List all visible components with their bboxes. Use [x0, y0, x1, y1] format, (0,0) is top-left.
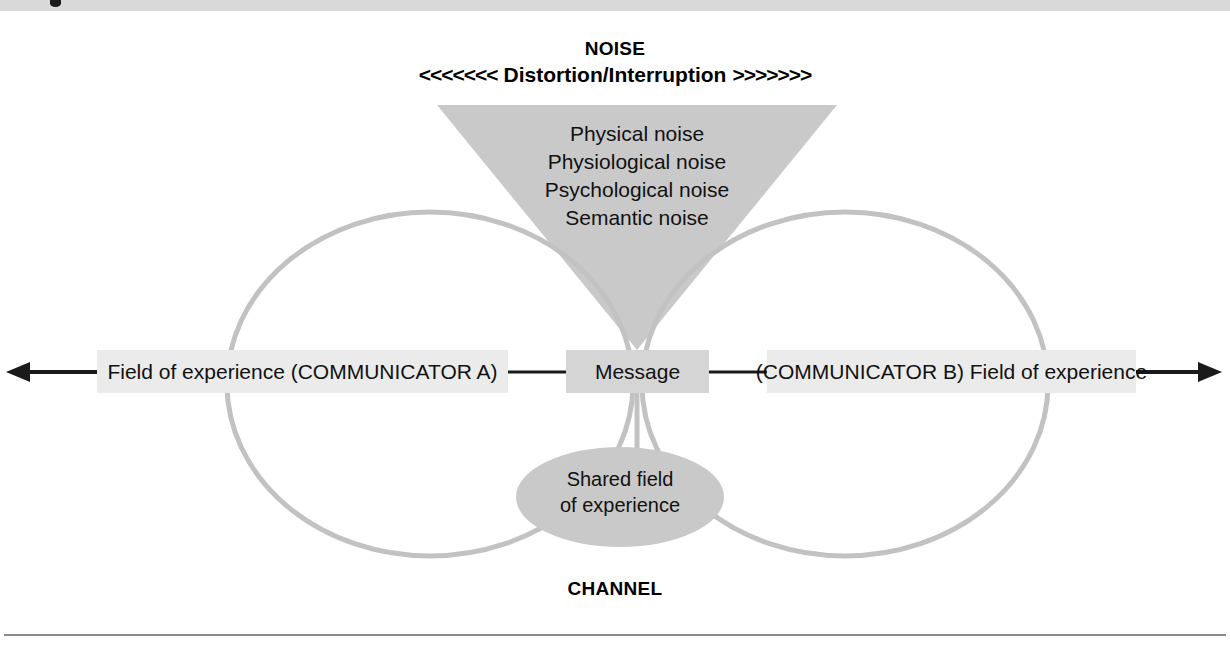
shared-field-label: Shared field of experience	[527, 466, 713, 518]
noise-type-item: Physiological noise	[437, 148, 837, 176]
message-box: Message	[566, 350, 709, 393]
noise-types-list: Physical noise Physiological noise Psych…	[437, 120, 837, 232]
communication-model-figure: NOISE <<<<<<<Distortion/Interruption>>>>…	[0, 0, 1230, 655]
noise-type-item: Psychological noise	[437, 176, 837, 204]
noise-type-item: Semantic noise	[437, 204, 837, 232]
shared-field-line-1: Shared field	[527, 466, 713, 492]
shared-field-line-2: of experience	[527, 492, 713, 518]
noise-type-item: Physical noise	[437, 120, 837, 148]
figure-bottom-rule	[4, 634, 1226, 636]
left-arrow-head-icon	[6, 362, 30, 382]
field-of-experience-b-box: (COMMUNICATOR B) Field of experience	[767, 350, 1136, 393]
diagram-shapes	[0, 0, 1230, 655]
channel-label: CHANNEL	[0, 578, 1230, 600]
right-arrow-head-icon	[1198, 362, 1222, 382]
field-of-experience-a-box: Field of experience (COMMUNICATOR A)	[97, 350, 508, 393]
